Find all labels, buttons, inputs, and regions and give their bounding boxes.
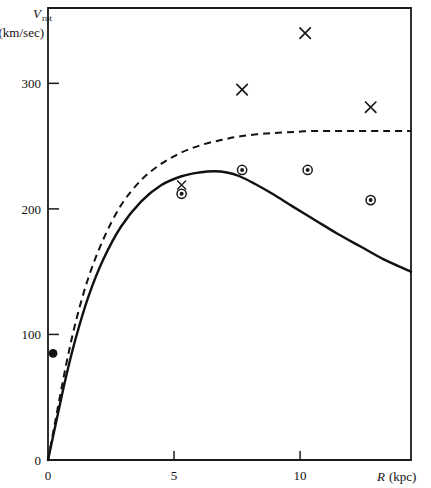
marker-circled-dot [238, 165, 247, 174]
marker-cross [365, 102, 375, 112]
x-tick-label: 10 [294, 468, 307, 483]
model-dashed-curve [48, 131, 411, 460]
marker-circled-dot [303, 165, 312, 174]
model-curves [48, 131, 411, 460]
marker-filled-dot [49, 349, 58, 358]
x-axis-title-units: (kpc) [389, 469, 416, 484]
x-axis-title: R (kpc) [376, 469, 416, 484]
y-axis-title-subscript: rot [42, 13, 52, 23]
y-axis-ticks [48, 83, 59, 334]
marker-core [306, 168, 310, 172]
inner-cross [178, 181, 186, 189]
marker-circled-dot [177, 189, 186, 198]
y-axis-title-units: (km/sec) [0, 25, 44, 40]
y-tick-label: 0 [35, 453, 42, 468]
marker-cross [300, 28, 310, 38]
y-axis-tick-labels: 0100200300 [22, 76, 42, 468]
x-axis-title-symbol: R [376, 469, 385, 484]
data-point-markers [49, 28, 376, 358]
chart-svg: 0510 0100200300 V rot (km/sec) R (kpc) [0, 0, 431, 488]
y-tick-label: 100 [22, 327, 42, 342]
rotation-curve-chart: 0510 0100200300 V rot (km/sec) R (kpc) [0, 0, 431, 488]
inner-filled-dot [49, 349, 58, 358]
x-axis-ticks [174, 451, 300, 460]
observed-crosses [237, 28, 376, 112]
y-axis-title: V rot (km/sec) [0, 6, 52, 40]
marker-circled-dot [366, 196, 375, 205]
axes-frame [48, 8, 411, 460]
marker-core [180, 192, 184, 196]
x-axis-tick-labels: 0510 [45, 468, 307, 483]
marker-core [240, 168, 244, 172]
y-tick-label: 200 [22, 202, 42, 217]
marker-cross [237, 84, 247, 94]
x-tick-label: 5 [171, 468, 178, 483]
x-tick-label: 0 [45, 468, 52, 483]
axis-frame-path [48, 8, 411, 460]
model-solid-curve [48, 171, 411, 460]
marker-cross [178, 181, 186, 189]
marker-core [369, 198, 373, 202]
y-tick-label: 300 [22, 76, 42, 91]
